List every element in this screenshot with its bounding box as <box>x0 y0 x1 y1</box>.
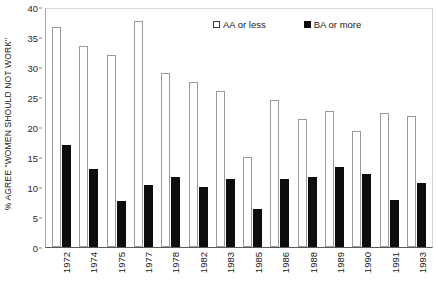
x-axis-label-1990: 1990 <box>362 252 373 273</box>
y-axis-tickmark-20 <box>39 128 42 129</box>
bar-group-1985 <box>239 9 266 247</box>
bar-chart: % AGREE "WOMEN SHOULD NOT WORK" 05101520… <box>0 0 438 298</box>
bar-1978-ba-or-more <box>171 177 180 247</box>
bar-1985-ba-or-more <box>253 209 262 247</box>
x-axis-label-1991: 1991 <box>390 252 401 273</box>
bar-1982-ba-or-more <box>199 187 208 247</box>
bar-group-1990 <box>348 9 375 247</box>
y-axis-tickmark-0 <box>39 248 42 249</box>
y-axis-tickmark-25 <box>39 98 42 99</box>
y-axis-tickmark-40 <box>39 8 42 9</box>
bar-group-1989 <box>321 9 348 247</box>
bar-1986-ba-or-more <box>280 179 289 247</box>
bar-1988-ba-or-more <box>308 177 317 247</box>
bar-1991-aa-or-less <box>380 113 389 247</box>
bar-group-1993 <box>403 9 430 247</box>
x-axis-label-1989: 1989 <box>335 252 346 273</box>
x-axis-label-1982: 1982 <box>198 252 209 273</box>
bar-1974-ba-or-more <box>89 169 98 247</box>
filled-square-icon <box>304 21 311 28</box>
y-axis-tick-25: 25 <box>27 93 38 104</box>
bar-1989-aa-or-less <box>325 111 334 247</box>
x-axis-label-1974: 1974 <box>88 252 99 273</box>
y-axis-tickmark-15 <box>39 158 42 159</box>
bar-1972-aa-or-less <box>52 27 61 247</box>
x-axis-label-1978: 1978 <box>170 252 181 273</box>
bar-1975-ba-or-more <box>117 201 126 247</box>
bar-group-1977 <box>130 9 157 247</box>
bar-group-1982 <box>184 9 211 247</box>
y-axis-tickmark-5 <box>39 218 42 219</box>
y-axis-tick-0: 0 <box>33 243 38 254</box>
bar-1977-ba-or-more <box>144 185 153 247</box>
bar-1993-ba-or-more <box>417 183 426 247</box>
y-axis-tick-35: 35 <box>27 33 38 44</box>
x-axis-label-cell-1993: 1993 <box>403 249 430 295</box>
bar-1990-aa-or-less <box>352 131 361 247</box>
legend-label: BA or more <box>314 19 362 30</box>
caption-strip <box>58 289 358 296</box>
bar-1988-aa-or-less <box>298 119 307 247</box>
y-axis-tick-5: 5 <box>33 213 38 224</box>
y-axis-tick-30: 30 <box>27 63 38 74</box>
x-axis-label-1983: 1983 <box>225 252 236 273</box>
bar-1985-aa-or-less <box>243 157 252 247</box>
legend-entry-aa-or-less: AA or less <box>213 19 266 30</box>
bar-1990-ba-or-more <box>362 174 371 247</box>
x-axis-label-1975: 1975 <box>116 252 127 273</box>
y-axis-tick-40: 40 <box>27 3 38 14</box>
bar-1991-ba-or-more <box>390 200 399 247</box>
bar-1975-aa-or-less <box>107 55 116 247</box>
y-axis-tick-10: 10 <box>27 183 38 194</box>
hollow-square-icon <box>213 21 220 28</box>
x-axis-label-1993: 1993 <box>417 252 428 273</box>
bar-group-1988 <box>294 9 321 247</box>
y-axis-tickmark-30 <box>39 68 42 69</box>
x-axis-label-1972: 1972 <box>61 252 72 273</box>
bar-1974-aa-or-less <box>79 46 88 247</box>
legend-entry-ba-or-more: BA or more <box>304 19 362 30</box>
y-axis-title-text: % AGREE "WOMEN SHOULD NOT WORK" <box>3 38 13 211</box>
bar-1982-aa-or-less <box>189 82 198 247</box>
bar-group-1972 <box>48 9 75 247</box>
bar-group-1975 <box>103 9 130 247</box>
bar-groups <box>46 9 432 247</box>
bar-group-1991 <box>375 9 402 247</box>
bar-1972-ba-or-more <box>62 145 71 247</box>
bar-1989-ba-or-more <box>335 167 344 247</box>
x-axis-label-1986: 1986 <box>280 252 291 273</box>
y-axis-title: % AGREE "WOMEN SHOULD NOT WORK" <box>0 0 16 248</box>
x-axis-label-1988: 1988 <box>308 252 319 273</box>
bar-group-1978 <box>157 9 184 247</box>
plot-area <box>45 8 433 248</box>
chart-legend: AA or lessBA or more <box>213 19 361 30</box>
bar-group-1974 <box>75 9 102 247</box>
bar-1986-aa-or-less <box>270 100 279 247</box>
bar-1978-aa-or-less <box>161 73 170 247</box>
legend-label: AA or less <box>223 19 266 30</box>
bar-group-1983 <box>212 9 239 247</box>
bar-group-1986 <box>266 9 293 247</box>
y-axis-tick-15: 15 <box>27 153 38 164</box>
x-axis-label-1977: 1977 <box>143 252 154 273</box>
y-axis-tick-20: 20 <box>27 123 38 134</box>
bar-1993-aa-or-less <box>407 116 416 247</box>
y-axis-tickmark-10 <box>39 188 42 189</box>
x-axis-label-1985: 1985 <box>253 252 264 273</box>
bar-1983-aa-or-less <box>216 91 225 247</box>
x-axis-label-cell-1991: 1991 <box>376 249 403 295</box>
y-axis-tickmark-35 <box>39 38 42 39</box>
y-axis-tick-labels: 0510152025303540 <box>16 0 42 248</box>
bar-1977-aa-or-less <box>134 21 143 247</box>
bar-1983-ba-or-more <box>226 179 235 247</box>
